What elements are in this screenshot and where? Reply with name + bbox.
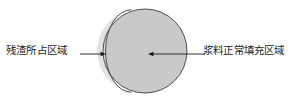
- figure-container: 残渣所占区域 浆料正常填充区域: [0, 0, 301, 102]
- slurry-region-label: 浆料正常填充区域: [203, 44, 285, 57]
- residue-region-label: 残渣所占区域: [6, 44, 67, 57]
